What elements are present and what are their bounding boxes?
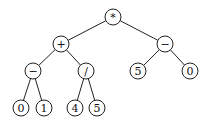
- node-one: 1: [36, 100, 52, 116]
- node-plus: +: [53, 36, 69, 52]
- node-label: 0: [18, 102, 25, 115]
- node-label: 4: [72, 102, 79, 115]
- node-label: 1: [41, 102, 48, 115]
- node-label: 0: [187, 65, 194, 78]
- node-label: +: [56, 38, 65, 51]
- node-label: 5: [94, 102, 101, 115]
- node-label: *: [110, 11, 116, 24]
- edge-divide-five-left: [88, 79, 94, 101]
- edge-minus-left-one: [35, 79, 41, 101]
- node-root: *: [105, 9, 121, 25]
- node-minus-left: −: [25, 63, 41, 79]
- node-minus-right: −: [157, 36, 173, 52]
- edge-minus-left-zero-left: [23, 79, 30, 101]
- edge-plus-minus-left: [39, 50, 55, 66]
- node-zero-right: 0: [182, 63, 198, 79]
- edge-plus-divide: [66, 50, 80, 65]
- node-label: 5: [135, 65, 142, 78]
- tree-edges: [23, 21, 184, 101]
- node-label: −: [28, 65, 37, 78]
- edge-root-plus: [68, 21, 106, 41]
- edge-divide-four: [77, 79, 83, 101]
- edge-minus-right-zero-right: [170, 50, 184, 65]
- edge-minus-right-five-right: [144, 50, 160, 66]
- node-five-right: 5: [130, 63, 146, 79]
- node-label: −: [160, 38, 169, 51]
- node-four: 4: [67, 100, 83, 116]
- node-label: /: [84, 65, 88, 78]
- expression-tree-diagram: *+−−/500145: [0, 0, 213, 124]
- node-five-left: 5: [89, 100, 105, 116]
- node-zero-left: 0: [13, 100, 29, 116]
- tree-nodes: *+−−/500145: [13, 9, 198, 116]
- edge-root-minus-right: [120, 21, 158, 41]
- node-divide: /: [78, 63, 94, 79]
